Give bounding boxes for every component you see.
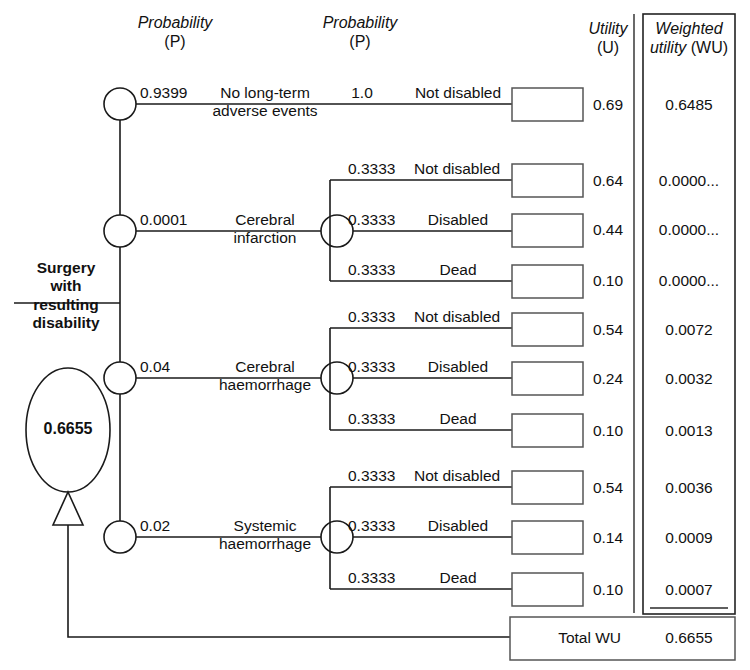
branch-2-outcome-1-label: Not disabled bbox=[414, 160, 500, 178]
branch-2-outcome-2-utility: 0.44 bbox=[593, 221, 623, 239]
branch-4-outcome-1-weighted-utility: 0.0036 bbox=[665, 479, 712, 497]
branch-4-outcome-1-label: Not disabled bbox=[414, 467, 500, 485]
branch-2-name: Cerebral infarction bbox=[234, 211, 297, 248]
chance-node-2 bbox=[104, 215, 136, 247]
terminal-box-7 bbox=[512, 414, 583, 447]
terminal-box-4 bbox=[512, 265, 583, 298]
branch-3-outcome-1-label: Not disabled bbox=[414, 308, 500, 326]
branch-2-outcome-2-weighted-utility: 0.0000... bbox=[659, 221, 719, 239]
terminal-box-1 bbox=[512, 88, 583, 121]
branch-4-outcome-1-utility: 0.54 bbox=[593, 479, 623, 497]
branch-4-outcome-2-weighted-utility: 0.0009 bbox=[665, 529, 712, 547]
branch-3-outcome-1-utility: 0.54 bbox=[593, 321, 623, 339]
branch-2-outcome-1-probability: 0.3333 bbox=[348, 160, 395, 178]
branch-1-outcome-1-utility: 0.69 bbox=[593, 96, 623, 114]
branch-3-name: Cerebral haemorrhage bbox=[219, 358, 311, 395]
branch-3-outcome-1-weighted-utility: 0.0072 bbox=[665, 321, 712, 339]
branch-4-probability: 0.02 bbox=[140, 517, 170, 535]
total-wu-value: 0.6655 bbox=[665, 629, 712, 647]
branch-1-outcome-1-probability: 1.0 bbox=[351, 84, 373, 102]
branch-4-outcome-3-utility: 0.10 bbox=[593, 581, 623, 599]
terminal-box-8 bbox=[512, 471, 583, 504]
terminal-box-2 bbox=[512, 164, 583, 197]
branch-4-outcome-2-utility: 0.14 bbox=[593, 529, 623, 547]
branch-1-name: No long-term adverse events bbox=[212, 84, 317, 121]
branch-3-outcome-2-utility: 0.24 bbox=[593, 370, 623, 388]
terminal-box-10 bbox=[512, 573, 583, 606]
branch-3-outcome-2-label: Disabled bbox=[428, 358, 488, 376]
branch-3-outcome-2-weighted-utility: 0.0032 bbox=[665, 370, 712, 388]
branch-1-outcome-1-weighted-utility: 0.6485 bbox=[665, 96, 712, 114]
branch-2-outcome-3-utility: 0.10 bbox=[593, 272, 623, 290]
branch-3-outcome-3-weighted-utility: 0.0013 bbox=[665, 422, 712, 440]
branch-2-outcome-1-weighted-utility: 0.0000... bbox=[659, 172, 719, 190]
terminal-box-3 bbox=[512, 214, 583, 247]
decision-tree-figure: Probability (P) Probability (P) Utility … bbox=[0, 0, 750, 670]
branch-2-outcome-3-weighted-utility: 0.0000... bbox=[659, 272, 719, 290]
branch-2-outcome-3-label: Dead bbox=[439, 261, 476, 279]
branch-3-outcome-3-probability: 0.3333 bbox=[348, 410, 395, 428]
terminal-box-9 bbox=[512, 521, 583, 554]
branch-3-outcome-2-probability: 0.3333 bbox=[348, 358, 395, 376]
header-utility: Utility (U) bbox=[588, 20, 627, 58]
branch-3-outcome-3-utility: 0.10 bbox=[593, 422, 623, 440]
branch-2-probability: 0.0001 bbox=[140, 211, 187, 229]
terminal-box-5 bbox=[512, 313, 583, 346]
expected-value-label: 0.6655 bbox=[44, 420, 93, 439]
branch-1-probability: 0.9399 bbox=[140, 84, 187, 102]
branch-2-outcome-3-probability: 0.3333 bbox=[348, 261, 395, 279]
branch-3-outcome-1-probability: 0.3333 bbox=[348, 308, 395, 326]
rollback-arrow-icon bbox=[53, 492, 83, 525]
chance-node-4 bbox=[104, 521, 136, 553]
root-label: Surgery with resulting disability bbox=[32, 259, 99, 332]
branch-4-name: Systemic haemorrhage bbox=[219, 517, 311, 554]
branch-1-outcome-1-label: Not disabled bbox=[415, 84, 501, 102]
branch-2-outcome-1-utility: 0.64 bbox=[593, 172, 623, 190]
branch-4-outcome-3-weighted-utility: 0.0007 bbox=[665, 581, 712, 599]
branch-3-probability: 0.04 bbox=[140, 358, 170, 376]
header-probability-2: Probability (P) bbox=[323, 14, 398, 52]
branch-4-outcome-1-probability: 0.3333 bbox=[348, 467, 395, 485]
total-wu-label: Total WU bbox=[558, 629, 621, 647]
branch-2-outcome-2-probability: 0.3333 bbox=[348, 211, 395, 229]
chance-node-3 bbox=[104, 362, 136, 394]
branch-4-outcome-2-label: Disabled bbox=[428, 517, 488, 535]
branch-2-outcome-2-label: Disabled bbox=[428, 211, 488, 229]
chance-node-1 bbox=[104, 88, 136, 120]
header-probability-1: Probability (P) bbox=[138, 14, 213, 52]
header-weighted-utility: Weighted utility (WU) bbox=[650, 20, 728, 58]
terminal-box-6 bbox=[512, 362, 583, 395]
branch-4-outcome-3-label: Dead bbox=[439, 569, 476, 587]
branch-4-outcome-2-probability: 0.3333 bbox=[348, 517, 395, 535]
branch-4-outcome-3-probability: 0.3333 bbox=[348, 569, 395, 587]
branch-3-outcome-3-label: Dead bbox=[439, 410, 476, 428]
